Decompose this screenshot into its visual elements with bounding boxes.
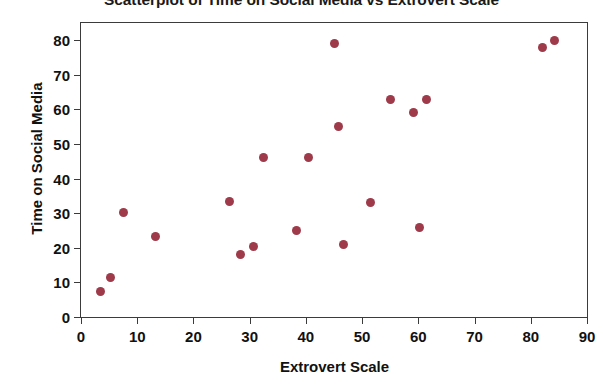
data-point <box>386 95 395 104</box>
data-point <box>415 223 424 232</box>
plot-frame: 010203040506070800102030405060708090 <box>80 22 588 318</box>
data-point <box>106 273 115 282</box>
data-point <box>422 95 431 104</box>
x-axis-tick-label: 20 <box>185 328 202 345</box>
page-title: Scatterplot of Time on Social Media vs E… <box>0 0 603 9</box>
x-axis-tick <box>250 317 251 324</box>
y-axis-tick-label: 80 <box>53 32 70 49</box>
data-point <box>259 153 268 162</box>
x-axis-tick-label: 50 <box>354 328 371 345</box>
x-axis-tick-label: 10 <box>129 328 146 345</box>
plot-area <box>81 23 587 317</box>
y-axis-tick <box>74 317 81 318</box>
data-point <box>334 122 343 131</box>
data-point <box>119 208 128 217</box>
data-point <box>409 108 418 117</box>
y-axis-tick <box>74 179 81 180</box>
y-axis-tick-label: 10 <box>53 274 70 291</box>
data-point <box>550 36 559 45</box>
data-point <box>96 287 105 296</box>
x-axis-tick <box>531 317 532 324</box>
y-axis-tick <box>74 282 81 283</box>
data-point <box>339 240 348 249</box>
data-point <box>304 153 313 162</box>
x-axis-tick-label: 0 <box>77 328 85 345</box>
data-point <box>151 232 160 241</box>
y-axis-tick-label: 20 <box>53 239 70 256</box>
y-axis-tick <box>74 40 81 41</box>
x-axis-tick <box>418 317 419 324</box>
scatterplot-figure: Scatterplot of Time on Social Media vs E… <box>0 0 603 390</box>
y-axis-tick <box>74 75 81 76</box>
y-axis-tick-label: 40 <box>53 170 70 187</box>
data-point <box>538 43 547 52</box>
x-axis-tick <box>475 317 476 324</box>
y-axis-tick-label: 50 <box>53 136 70 153</box>
x-axis-tick <box>306 317 307 324</box>
y-axis-tick <box>74 109 81 110</box>
y-axis-tick-label: 60 <box>53 101 70 118</box>
y-axis-tick <box>74 213 81 214</box>
y-axis-tick-label: 0 <box>62 309 70 326</box>
x-axis-tick-label: 40 <box>298 328 315 345</box>
data-point <box>236 250 245 259</box>
x-axis-tick <box>362 317 363 324</box>
data-point <box>249 242 258 251</box>
x-axis-tick-label: 80 <box>522 328 539 345</box>
y-axis-title: Time on Social Media <box>28 44 45 274</box>
x-axis-tick-label: 60 <box>410 328 427 345</box>
y-axis-tick-label: 70 <box>53 66 70 83</box>
x-axis-tick-label: 70 <box>466 328 483 345</box>
y-axis-tick <box>74 248 81 249</box>
x-axis-tick <box>587 317 588 324</box>
data-point <box>225 197 234 206</box>
x-axis-title: Extrovert Scale <box>80 358 589 375</box>
x-axis-tick-label: 30 <box>241 328 258 345</box>
data-point <box>292 226 301 235</box>
x-axis-tick <box>81 317 82 324</box>
y-axis-tick <box>74 144 81 145</box>
y-axis-tick-label: 30 <box>53 205 70 222</box>
x-axis-tick <box>193 317 194 324</box>
x-axis-tick-label: 90 <box>579 328 596 345</box>
data-point <box>330 39 339 48</box>
data-point <box>366 198 375 207</box>
x-axis-tick <box>137 317 138 324</box>
